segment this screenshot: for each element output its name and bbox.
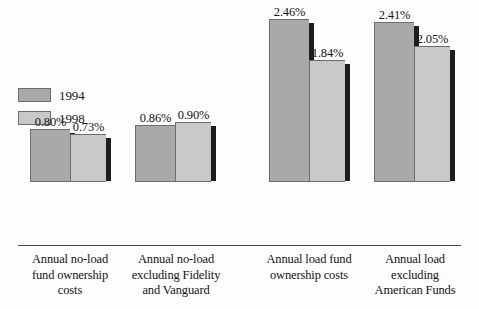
bar-group-3: 2.46% 1.84% xyxy=(269,0,345,182)
category-label-3: Annual load fund ownership costs xyxy=(245,252,373,283)
bar-1998-g4[interactable]: 2.05% xyxy=(414,46,450,182)
bar-value-1994-g2: 0.86% xyxy=(140,112,171,125)
bar-wrap-1998-g4: 2.05% xyxy=(414,0,450,182)
category-label-4-line-3: American Funds xyxy=(355,283,475,299)
bar-value-1998-g3: 1.84% xyxy=(312,47,343,60)
bar-wrap-1994-g4: 2.41% xyxy=(374,0,414,182)
bar-1994-g3[interactable]: 2.46% xyxy=(269,19,309,182)
category-label-3-line-2: ownership costs xyxy=(245,268,373,284)
category-label-2: Annual no-load excluding Fidelity and Va… xyxy=(113,252,239,299)
bar-wrap-1994-g2: 0.86% xyxy=(135,0,175,182)
bar-wrap-1998-g3: 1.84% xyxy=(309,0,345,182)
category-label-2-line-2: excluding Fidelity xyxy=(113,268,239,284)
bar-wrap-1998-g1: 0.73% xyxy=(70,0,106,182)
bar-value-1998-g2: 0.90% xyxy=(178,109,209,122)
bar-value-1998-g4: 2.05% xyxy=(417,33,448,46)
category-label-2-line-1: Annual no-load xyxy=(113,252,239,268)
plot-area: 1994 1998 0.80% 0.73% xyxy=(0,0,479,246)
bar-value-1994-g1: 0.80% xyxy=(35,116,66,129)
bar-chart: 1994 1998 0.80% 0.73% xyxy=(0,0,479,309)
category-label-2-line-3: and Vanguard xyxy=(113,283,239,299)
category-label-4: Annual load excluding American Funds xyxy=(355,252,475,299)
bar-1998-g3[interactable]: 1.84% xyxy=(309,60,345,182)
category-label-4-line-1: Annual load xyxy=(355,252,475,268)
bar-1994-g2[interactable]: 0.86% xyxy=(135,125,175,182)
bar-1994-g1[interactable]: 0.80% xyxy=(30,129,70,182)
bar-value-1994-g4: 2.41% xyxy=(379,9,410,22)
bar-wrap-1994-g1: 0.80% xyxy=(30,0,70,182)
category-label-3-line-1: Annual load fund xyxy=(245,252,373,268)
bar-1998-g2[interactable]: 0.90% xyxy=(175,122,211,182)
bar-group-4: 2.41% 2.05% xyxy=(374,0,450,182)
bar-1994-g4[interactable]: 2.41% xyxy=(374,22,414,182)
bar-value-1998-g1: 0.73% xyxy=(73,121,104,134)
bar-value-1994-g3: 2.46% xyxy=(274,6,305,19)
category-label-4-line-2: excluding xyxy=(355,268,475,284)
bar-1998-g1[interactable]: 0.73% xyxy=(70,134,106,182)
bar-wrap-1994-g3: 2.46% xyxy=(269,0,309,182)
x-axis-baseline xyxy=(18,245,461,246)
bar-group-2: 0.86% 0.90% xyxy=(135,0,211,182)
bar-wrap-1998-g2: 0.90% xyxy=(175,0,211,182)
bar-group-1: 0.80% 0.73% xyxy=(30,0,106,182)
